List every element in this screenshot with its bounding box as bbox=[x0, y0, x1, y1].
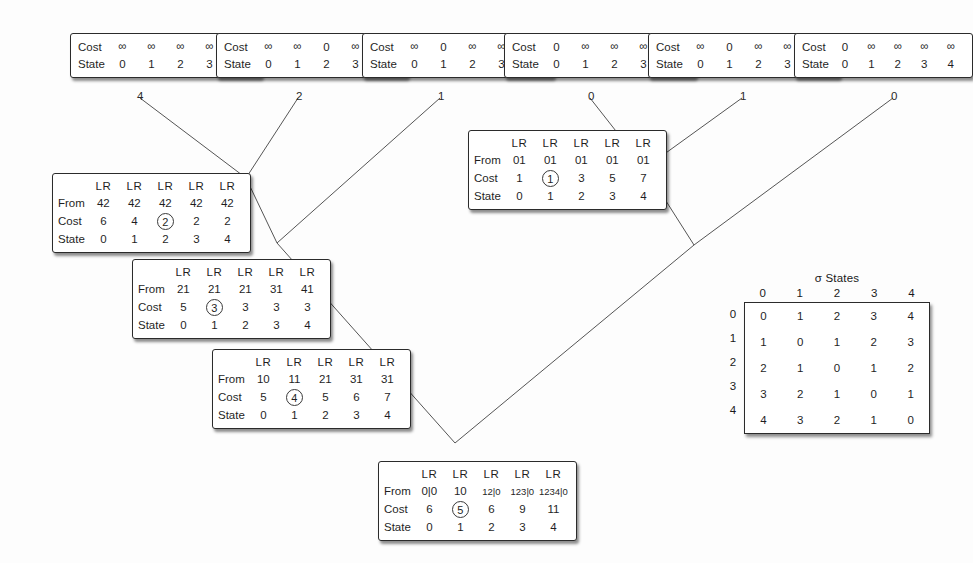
lr-header-cell: LR bbox=[597, 135, 628, 152]
row-label-cost: Cost bbox=[512, 39, 542, 56]
row-label-from: From bbox=[474, 152, 504, 169]
leaf-cost-cell: ∞ bbox=[911, 38, 937, 55]
edge-leaf6 bbox=[694, 98, 893, 245]
node-state-row: State01234 bbox=[218, 407, 403, 424]
sigma-matrix-cell: 3 bbox=[855, 303, 892, 329]
node-cost-cell: 5 bbox=[597, 169, 628, 188]
row-label-cost: Cost bbox=[474, 169, 504, 188]
sigma-col-header: 3 bbox=[856, 287, 893, 299]
row-label-state: State bbox=[224, 56, 254, 73]
sigma-row-header: 2 bbox=[722, 350, 744, 374]
leaf-state-cell: 2 bbox=[600, 56, 629, 73]
node-state-cell: 4 bbox=[212, 231, 243, 248]
sigma-row-header: 0 bbox=[722, 302, 744, 326]
node-cost-cell: 11 bbox=[538, 500, 569, 519]
lr-header-cell: LR bbox=[507, 466, 538, 483]
row-label-cost: Cost bbox=[384, 500, 414, 519]
node-cost-row: Cost11357 bbox=[474, 169, 659, 188]
lr-header-cell: LR bbox=[535, 135, 566, 152]
lr-header-spacer bbox=[384, 466, 414, 483]
node-cost-cell-circled: 1 bbox=[535, 169, 566, 188]
lr-header-spacer bbox=[58, 178, 88, 195]
lr-header-cell: LR bbox=[310, 354, 341, 371]
leaf-state-cell: 4 bbox=[938, 56, 964, 73]
sigma-matrix-cell: 1 bbox=[819, 329, 856, 355]
node-state-cell: 4 bbox=[372, 407, 403, 424]
node-from-cell: 01 bbox=[597, 152, 628, 169]
row-label-from: From bbox=[218, 371, 248, 388]
lr-header-cell: LR bbox=[538, 466, 569, 483]
node-box-cost-4: LRLRLRLRLRFrom1011213131Cost54567State01… bbox=[212, 349, 411, 429]
node-from-cell: 01 bbox=[504, 152, 535, 169]
sigma-matrix-cell: 2 bbox=[819, 407, 856, 433]
lr-header-cell: LR bbox=[212, 178, 243, 195]
row-label-cost: Cost bbox=[224, 39, 254, 56]
leaf-state-cell: 2 bbox=[166, 56, 195, 73]
node-state-cell: 2 bbox=[476, 519, 507, 536]
node-state-cell: 0 bbox=[248, 407, 279, 424]
leaf-table: Cost0∞∞∞∞State01234 bbox=[802, 39, 964, 73]
row-label-cost: Cost bbox=[370, 39, 400, 56]
node-from-cell: 11 bbox=[279, 371, 310, 388]
node-from-cell: 10 bbox=[248, 371, 279, 388]
leaf-cost-cell: 0 bbox=[832, 39, 858, 56]
lr-header-cell: LR bbox=[199, 264, 230, 281]
leaf-cost-cell: ∞ bbox=[254, 38, 283, 55]
edge-leaf2 bbox=[246, 98, 298, 178]
node-cost-cell: 1 bbox=[504, 169, 535, 188]
node-state-cell: 3 bbox=[261, 317, 292, 334]
sigma-row-header: 1 bbox=[722, 326, 744, 350]
sigma-matrix-cell: 0 bbox=[782, 329, 819, 355]
sigma-matrix-cell: 1 bbox=[819, 381, 856, 407]
leaf-cost-cell: ∞ bbox=[137, 38, 166, 55]
sigma-matrix-row: 21012 bbox=[745, 355, 929, 381]
sigma-matrix-cell: 4 bbox=[745, 407, 782, 433]
sigma-matrix-cell: 1 bbox=[745, 329, 782, 355]
leaf-state-cell: 0 bbox=[400, 56, 429, 73]
edge-junctionD-root bbox=[455, 245, 694, 443]
leaf-cost-cell: ∞ bbox=[571, 38, 600, 55]
node-cost-cell-circled: 3 bbox=[199, 298, 230, 317]
row-label-cost: Cost bbox=[58, 212, 88, 231]
lr-header-cell: LR bbox=[292, 264, 323, 281]
leaf-state-cell: 2 bbox=[885, 56, 911, 73]
node-from-cell: 31 bbox=[372, 371, 403, 388]
node-table: LRLRLRLRLRFrom0101010101Cost11357State01… bbox=[474, 135, 659, 205]
node-lr-header-row: LRLRLRLRLR bbox=[384, 466, 569, 483]
lr-header-cell: LR bbox=[181, 178, 212, 195]
sigma-matrix-body: 0123410123210123210143210 bbox=[745, 303, 929, 433]
node-lr-header-row: LRLRLRLRLR bbox=[138, 264, 323, 281]
leaf-cost-cell: ∞ bbox=[885, 38, 911, 55]
node-table: LRLRLRLRLRFrom4242424242Cost64222State01… bbox=[58, 178, 243, 248]
node-box-cost-1: LRLRLRLRLRFrom0101010101Cost11357State01… bbox=[468, 130, 667, 210]
lr-header-cell: LR bbox=[119, 178, 150, 195]
node-from-cell: 12|0 bbox=[476, 483, 507, 500]
node-cost-cell: 6 bbox=[88, 212, 119, 231]
node-from-cell: 21 bbox=[168, 281, 199, 298]
leaf-state-cell: 2 bbox=[458, 56, 487, 73]
sigma-row-headers: 01234 bbox=[722, 302, 744, 434]
leaf-state-cell: 1 bbox=[283, 56, 312, 73]
leaf-state-cell: 1 bbox=[858, 56, 884, 73]
node-cost-cell: 7 bbox=[628, 169, 659, 188]
leaf-cost-cell: ∞ bbox=[458, 38, 487, 55]
leaf-cost-cell: ∞ bbox=[938, 38, 964, 55]
node-state-cell: 3 bbox=[341, 407, 372, 424]
row-label-cost: Cost bbox=[802, 39, 832, 56]
row-label-from: From bbox=[384, 483, 414, 500]
node-state-cell: 0 bbox=[504, 188, 535, 205]
row-label-state: State bbox=[802, 56, 832, 73]
node-lr-header-row: LRLRLRLRLR bbox=[474, 135, 659, 152]
sigma-col-header: 0 bbox=[744, 287, 781, 299]
sigma-matrix-cell: 2 bbox=[855, 329, 892, 355]
sigma-matrix-cell: 2 bbox=[745, 355, 782, 381]
node-cost-cell-circled: 4 bbox=[279, 388, 310, 407]
node-from-cell: 42 bbox=[181, 195, 212, 212]
node-cost-cell: 2 bbox=[181, 212, 212, 231]
leaf-state-cell: 3 bbox=[911, 56, 937, 73]
node-from-cell: 01 bbox=[535, 152, 566, 169]
edge-label-1: 4 bbox=[137, 90, 143, 102]
edge-label-5: 1 bbox=[740, 90, 746, 102]
row-label-state: State bbox=[512, 56, 542, 73]
node-from-cell: 21 bbox=[310, 371, 341, 388]
